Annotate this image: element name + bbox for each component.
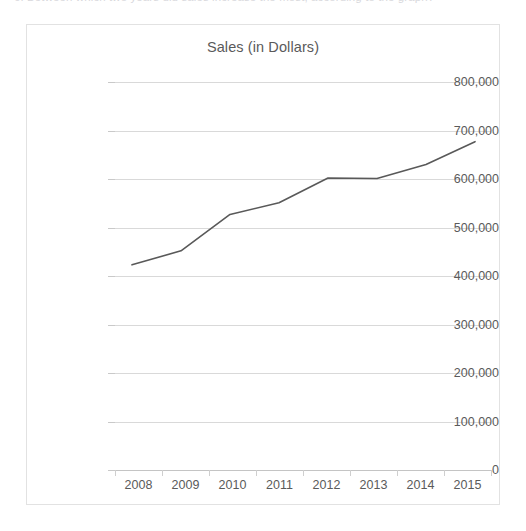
plot-area: 0100,000200,000300,000400,000500,000600,…	[27, 25, 499, 504]
series-line-sales	[27, 25, 501, 506]
page-clipped-question-text: 6. Between which two years did sales inc…	[14, 0, 514, 5]
chart-frame: Sales (in Dollars) 0100,000200,000300,00…	[26, 24, 500, 505]
data-polyline	[132, 142, 475, 265]
